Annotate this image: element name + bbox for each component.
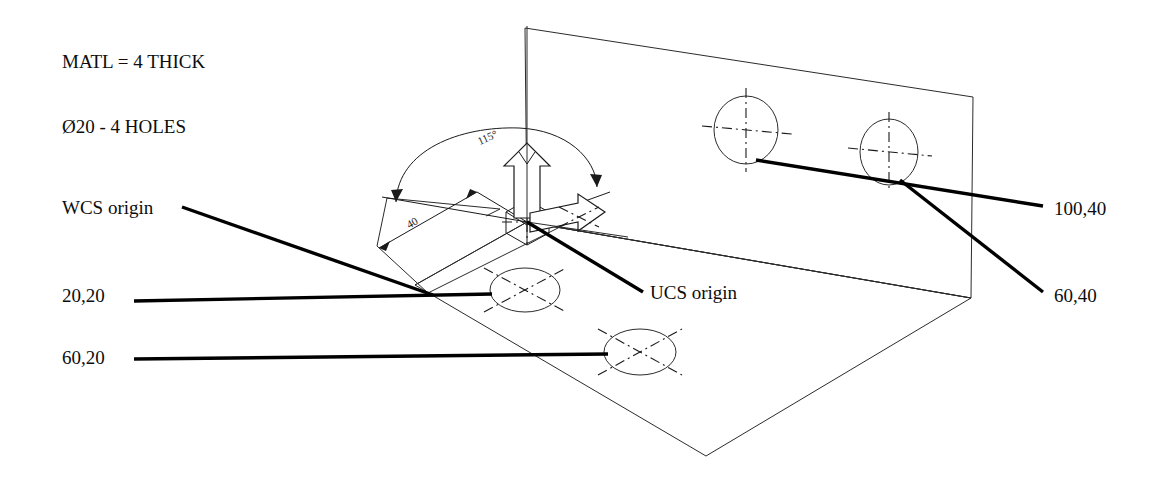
material-note: MATL = 4 THICK [62,51,205,72]
ucs-origin-label: UCS origin [650,282,738,303]
hole-100-40 [702,88,792,172]
length-dimension-value: 40 [404,214,420,230]
base-plate [377,198,971,456]
vertical-plate-outline [525,28,973,298]
hole-60-20-label: 60,20 [62,347,105,368]
hole-note: Ø20 - 4 HOLES [62,116,186,137]
hole-20-20 [484,268,566,312]
ucs-axis-marker [502,26,628,245]
length-dimension-40 [379,189,527,251]
leader-hole-100-40 [756,160,1043,206]
vertical-plate [525,28,973,298]
leader-hole-20-20 [134,294,492,301]
dim-arrowhead-b [466,189,477,199]
hole-20-20-label: 20,20 [62,285,105,306]
leader-lines [134,160,1043,359]
base-plate-outline [415,222,971,456]
hole-100-40-label: 100,40 [1054,198,1106,219]
wcs-origin-label: WCS origin [62,197,154,218]
technical-drawing-canvas: MATL = 4 THICK Ø20 - 4 HOLES WCS origin … [0,0,1172,482]
arc-arrowhead-right [590,174,602,187]
leader-ucs-origin [527,222,643,292]
dim-line-40 [379,192,477,248]
drawing-svg: MATL = 4 THICK Ø20 - 4 HOLES WCS origin … [0,0,1172,482]
hole-center-horizontal [848,148,932,156]
hole-60-20 [598,329,682,375]
base-plate-left-edge [415,222,527,285]
hole-center-mark-b [484,268,566,312]
x-axis-arrow [530,194,605,232]
leader-wcs-origin [182,207,433,295]
hole-60-40-label: 60,40 [1054,285,1097,306]
